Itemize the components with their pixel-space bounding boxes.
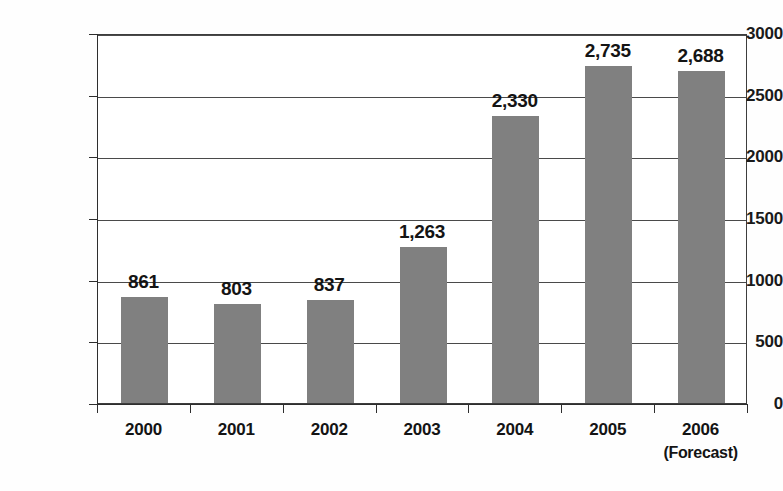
y-axis-tick	[89, 219, 98, 220]
y-axis-tick-label: 1500	[705, 209, 783, 229]
y-axis-tick	[89, 281, 98, 282]
bar	[585, 66, 632, 403]
gridline	[98, 97, 746, 98]
gridline	[98, 35, 746, 36]
y-axis-tick-label: 3000	[705, 24, 783, 44]
x-axis-category-label: 2001	[218, 420, 255, 440]
bar	[400, 247, 447, 403]
x-axis-tick	[376, 404, 377, 413]
x-axis-category-label: 2004	[496, 420, 533, 440]
x-axis-tick	[97, 404, 98, 413]
x-axis-tick	[283, 404, 284, 413]
x-axis-line	[97, 404, 747, 405]
bar	[214, 304, 261, 403]
bar-value-label: 803	[221, 278, 252, 300]
y-axis-tick	[89, 96, 98, 97]
x-axis-category-label: 2006(Forecast)	[663, 420, 737, 462]
plot-area	[97, 34, 747, 404]
x-axis-category-label: 2003	[403, 420, 440, 440]
bar-value-label: 837	[314, 274, 345, 296]
x-axis-tick	[468, 404, 469, 413]
bar	[678, 71, 725, 403]
y-axis-tick-label: 500	[705, 332, 783, 352]
bar-chart: 050010001500200025003000 8618038371,2632…	[0, 0, 783, 491]
y-axis-tick-label: 1000	[705, 271, 783, 291]
gridline	[98, 158, 746, 159]
x-axis-category-label: 2005	[589, 420, 626, 440]
bar-value-label: 2,330	[492, 90, 538, 112]
x-axis-category-sublabel: (Forecast)	[663, 444, 737, 462]
x-axis-tick	[561, 404, 562, 413]
bar-value-label: 2,735	[585, 40, 631, 62]
x-axis-tick	[747, 404, 748, 413]
x-axis-tick	[654, 404, 655, 413]
x-axis-tick	[190, 404, 191, 413]
y-axis-tick	[89, 157, 98, 158]
bar	[492, 116, 539, 403]
bar-value-label: 1,263	[399, 221, 445, 243]
x-axis-category-label: 2002	[311, 420, 348, 440]
y-axis-tick-label: 2500	[705, 86, 783, 106]
bar-value-label: 2,688	[678, 45, 724, 67]
bar-value-label: 861	[128, 271, 159, 293]
x-axis-category-label: 2000	[125, 420, 162, 440]
y-axis-tick-label: 2000	[705, 147, 783, 167]
y-axis-tick	[89, 342, 98, 343]
bar	[307, 300, 354, 403]
y-axis-tick	[89, 34, 98, 35]
bar	[121, 297, 168, 403]
